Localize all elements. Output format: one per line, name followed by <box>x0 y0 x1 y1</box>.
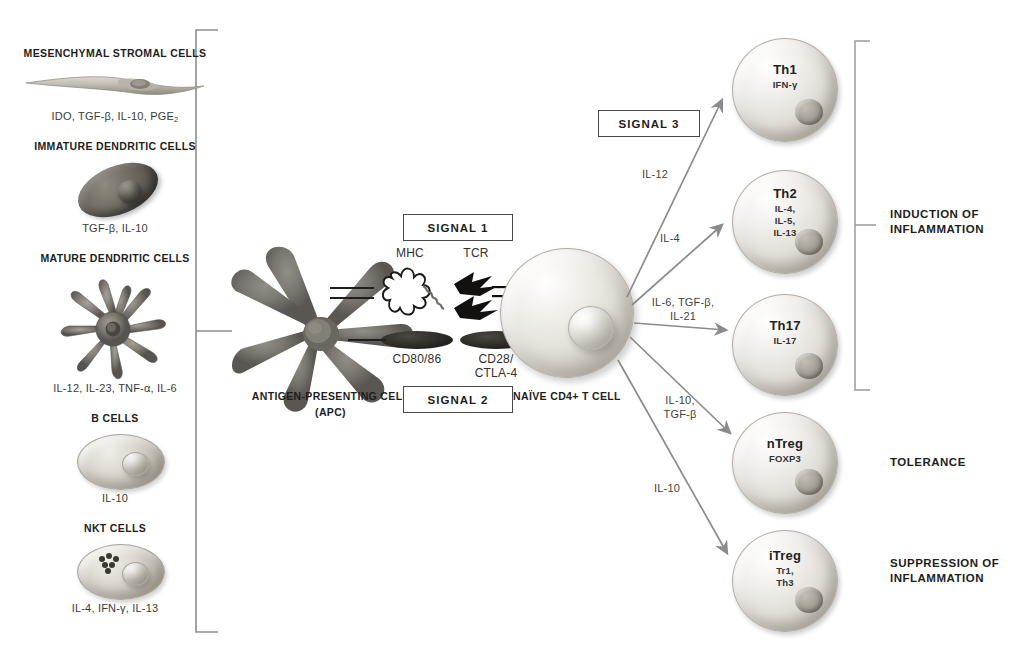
th1-sub-0: IFN-γ <box>733 79 837 91</box>
th2-cell: Th2 IL-4, IL-5, IL-13 <box>732 170 836 272</box>
outcome-tolerance-line1: TOLERANCE <box>890 455 966 470</box>
th2-sub-1: IL-5, <box>733 215 837 227</box>
ntreg-title: nTreg <box>733 437 837 451</box>
arrow-label-itreg: IL-10 <box>632 482 702 495</box>
ntreg-sub-0: FOXP3 <box>733 453 837 465</box>
th2-title: Th2 <box>733 187 837 201</box>
th1-cell: Th1 IFN-γ <box>732 38 836 140</box>
arrow-label-th17-line2: IL-21 <box>628 310 738 323</box>
th17-title: Th17 <box>733 319 837 333</box>
outcome-induction-line1: INDUCTION OF <box>890 207 984 222</box>
itreg-sub-1: Th3 <box>733 577 837 589</box>
itreg-cell: iTreg Tr1, Th3 <box>732 530 836 630</box>
outcome-tolerance: TOLERANCE <box>890 455 966 470</box>
arrow-label-ntreg-line1: IL-10, <box>642 394 718 407</box>
induction-bracket <box>848 38 888 398</box>
th17-cell: Th17 IL-17 <box>732 294 836 394</box>
th1-title: Th1 <box>733 63 837 77</box>
arrow-to-itreg <box>618 360 727 553</box>
th2-sub-0: IL-4, <box>733 203 837 215</box>
itreg-sub-0: Tr1, <box>733 565 837 577</box>
th2-sub-2: IL-13 <box>733 227 837 239</box>
th17-sub-0: IL-17 <box>733 335 837 347</box>
arrow-label-il12: IL-12 <box>620 168 690 181</box>
outcome-induction-line2: INFLAMMATION <box>890 222 984 237</box>
arrow-label-il4: IL-4 <box>640 232 700 245</box>
arrow-label-th17-line1: IL-6, TGF-β, <box>628 296 738 309</box>
ntreg-cell: nTreg FOXP3 <box>732 412 836 512</box>
outcome-suppression: SUPPRESSION OF INFLAMMATION <box>890 556 999 586</box>
outcome-induction: INDUCTION OF INFLAMMATION <box>890 207 984 237</box>
outcome-suppression-line1: SUPPRESSION OF <box>890 556 999 571</box>
diagram-canvas: MESENCHYMAL STROMAL CELLS IDO, TGF-β, IL… <box>0 0 1026 651</box>
arrow-label-ntreg-line2: TGF-β <box>642 408 718 421</box>
outcome-suppression-line2: INFLAMMATION <box>890 571 999 586</box>
itreg-title: iTreg <box>733 549 837 563</box>
arrow-to-th17 <box>634 323 726 330</box>
